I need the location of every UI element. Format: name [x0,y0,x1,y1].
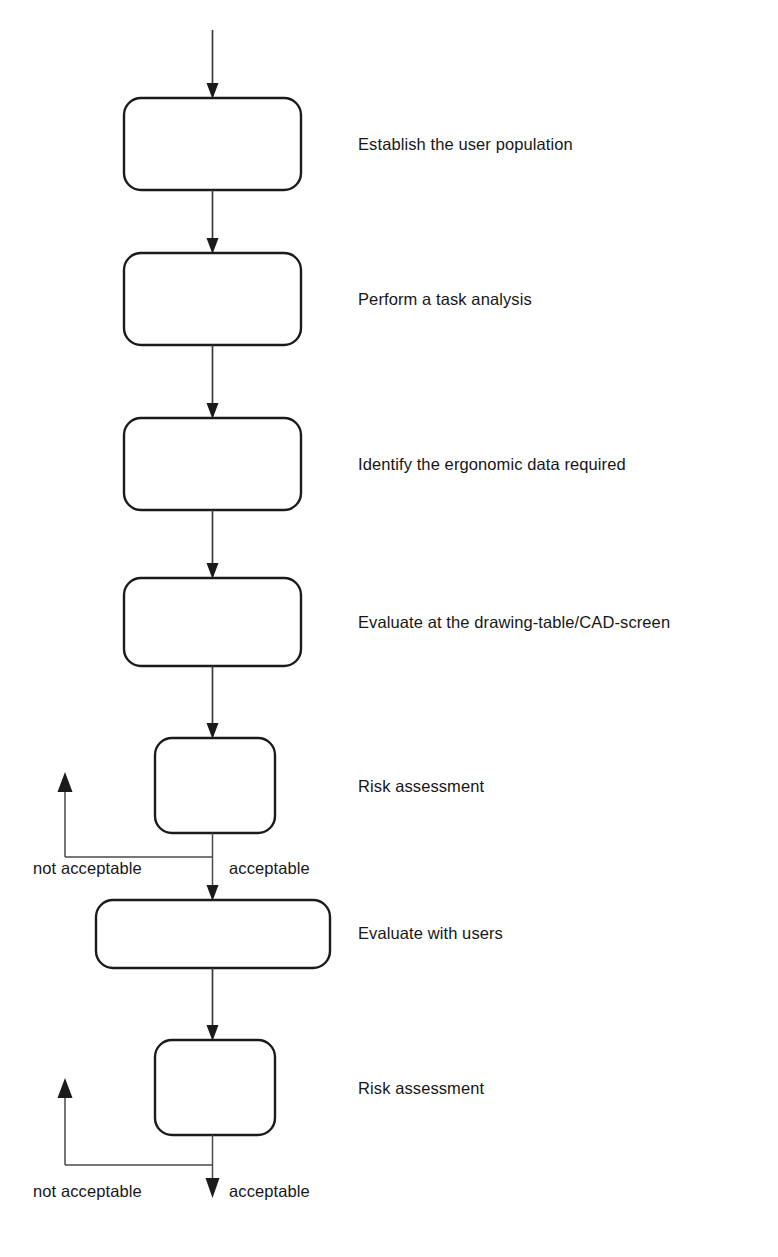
branch-label-acceptable-1: acceptable [229,860,310,877]
step-label-evaluate-drawing-table-cad-screen: Evaluate at the drawing-table/CAD-screen [358,614,670,631]
branch-label-not-acceptable-2: not acceptable [33,1183,142,1200]
step-label-identify-ergonomic-data: Identify the ergonomic data required [358,456,626,473]
connector-5-6-acceptable [207,857,219,901]
process-box-evaluate-drawing-table-cad-screen[interactable] [124,578,301,666]
process-box-identify-ergonomic-data[interactable] [124,418,301,510]
connector-6-7 [207,968,219,1041]
entry-arrow [207,30,219,99]
connector-2-3 [207,345,219,419]
connector-3-4 [207,510,219,579]
step-label-evaluate-with-users: Evaluate with users [358,925,503,942]
process-box-risk-assessment-1[interactable] [155,738,275,833]
process-box-evaluate-with-users[interactable] [96,900,330,968]
step-label-risk-assessment-2: Risk assessment [358,1080,484,1097]
exit-arrow-acceptable [206,1165,220,1198]
process-box-perform-task-analysis[interactable] [124,253,301,345]
flowchart-canvas: Establish the user population Perform a … [0,0,778,1257]
step-label-risk-assessment-1: Risk assessment [358,778,484,795]
process-box-risk-assessment-2[interactable] [155,1040,275,1135]
connector-4-5 [207,666,219,739]
branch-label-acceptable-2: acceptable [229,1183,310,1200]
connector-1-2 [207,190,219,254]
step-label-establish-user-population: Establish the user population [358,136,573,153]
branch-label-not-acceptable-1: not acceptable [33,860,142,877]
process-box-establish-user-population[interactable] [124,98,301,190]
step-label-perform-task-analysis: Perform a task analysis [358,291,532,308]
